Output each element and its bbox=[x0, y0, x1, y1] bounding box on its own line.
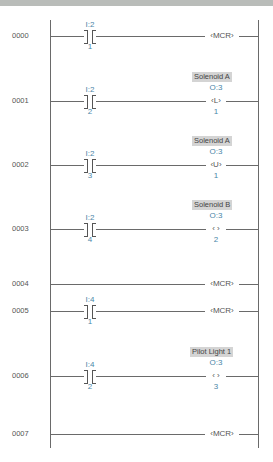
contact-address: I:2 bbox=[80, 149, 100, 158]
contact-bit: 2 bbox=[80, 107, 100, 116]
rung-number: 0002 bbox=[12, 160, 42, 169]
output-coil-icon[interactable]: ‹ › bbox=[206, 370, 226, 382]
contact-bit: 1 bbox=[80, 317, 100, 326]
contact-address: I:2 bbox=[80, 213, 100, 222]
mcr-coil-icon[interactable]: ‹MCR› bbox=[205, 278, 239, 290]
output-coil-icon[interactable]: ‹ › bbox=[206, 223, 226, 235]
rung-number: 0001 bbox=[12, 96, 42, 105]
wire bbox=[50, 165, 84, 166]
coil-bit: 3 bbox=[206, 382, 226, 391]
coil-bit: 2 bbox=[206, 235, 226, 244]
wire bbox=[50, 101, 84, 102]
coil-label: Solenoid B bbox=[192, 200, 232, 210]
coil-label: Pilot Light 1 bbox=[190, 347, 233, 357]
coil-address: O:3 bbox=[206, 83, 226, 92]
top-band bbox=[0, 0, 273, 6]
rung-number: 0004 bbox=[12, 279, 42, 288]
contact-bit: 4 bbox=[80, 235, 100, 244]
rung-number: 0003 bbox=[12, 224, 42, 233]
coil-label: Solenoid A bbox=[192, 136, 232, 146]
coil-address: O:3 bbox=[206, 147, 226, 156]
coil-address: O:3 bbox=[206, 358, 226, 367]
right-power-rail bbox=[258, 20, 259, 448]
rung-number: 0007 bbox=[12, 429, 42, 438]
coil-address: O:3 bbox=[206, 211, 226, 220]
coil-bit: 1 bbox=[206, 107, 226, 116]
contact-address: I:2 bbox=[80, 85, 100, 94]
mcr-coil-icon[interactable]: ‹MCR› bbox=[205, 30, 239, 42]
wire bbox=[96, 376, 258, 377]
wire bbox=[50, 311, 84, 312]
contact-address: I:4 bbox=[80, 360, 100, 369]
left-power-rail bbox=[50, 20, 51, 448]
rung-number: 0000 bbox=[12, 31, 42, 40]
wire bbox=[96, 101, 258, 102]
coil-bit: 1 bbox=[206, 171, 226, 180]
contact-address: I:2 bbox=[80, 20, 100, 29]
contact-bit: 2 bbox=[80, 382, 100, 391]
latch-coil-icon[interactable]: ‹L› bbox=[206, 95, 226, 107]
wire bbox=[50, 376, 84, 377]
wire bbox=[50, 229, 84, 230]
contact-address: I:4 bbox=[80, 295, 100, 304]
coil-label: Solenoid A bbox=[192, 72, 232, 82]
wire bbox=[96, 229, 258, 230]
contact-bit: 1 bbox=[80, 42, 100, 51]
rung-number: 0005 bbox=[12, 306, 42, 315]
rung-number: 0006 bbox=[12, 371, 42, 380]
mcr-coil-icon[interactable]: ‹MCR› bbox=[205, 305, 239, 317]
contact-bit: 3 bbox=[80, 171, 100, 180]
mcr-coil-icon[interactable]: ‹MCR› bbox=[205, 428, 239, 440]
wire bbox=[96, 165, 258, 166]
wire bbox=[50, 36, 84, 37]
unlatch-coil-icon[interactable]: ‹U› bbox=[206, 159, 226, 171]
